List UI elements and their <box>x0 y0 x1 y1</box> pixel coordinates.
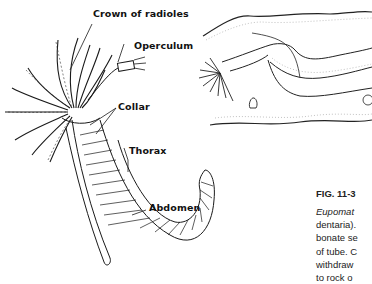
caption-line: to rock o <box>316 271 358 284</box>
label-operculum: Operculum <box>134 40 193 51</box>
rock-habitat-drawing <box>199 11 372 125</box>
caption-line: of tube. C <box>316 245 358 258</box>
label-crown-of-radioles: Crown of radioles <box>93 8 189 19</box>
caption-line: dentaria). <box>316 218 358 231</box>
caption-line: withdraw <box>316 258 358 271</box>
figure-caption: Eupomat dentaria). bonate se of tube. C … <box>316 205 358 284</box>
fan-worm-drawing <box>5 24 214 265</box>
label-thorax: Thorax <box>129 145 167 156</box>
label-collar: Collar <box>118 101 150 112</box>
label-abdomen: Abdomen <box>149 202 200 213</box>
caption-line: Eupomat <box>316 205 358 218</box>
caption-line: bonate se <box>316 231 358 244</box>
figure-number: FIG. 11-3 <box>316 188 356 199</box>
